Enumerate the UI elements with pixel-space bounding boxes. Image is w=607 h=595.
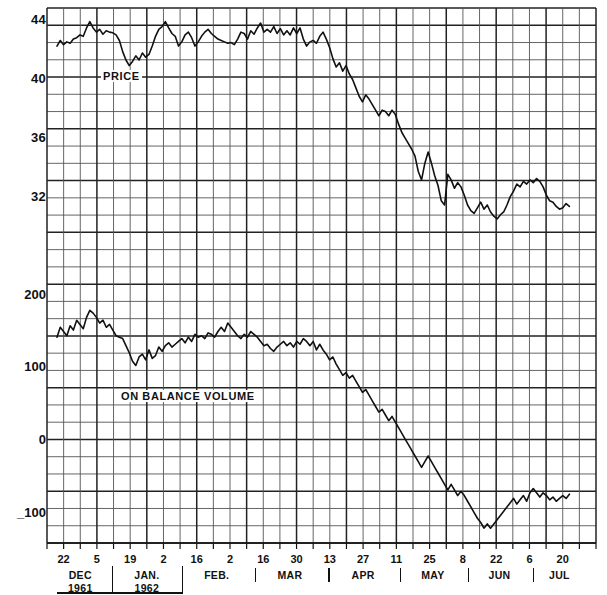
- x-axis-day-tick: 6: [515, 553, 543, 565]
- obv-series-annotation: ON BALANCE VOLUME: [119, 390, 257, 402]
- chart-canvas: [0, 0, 607, 595]
- y-axis-label-price-40: 40: [22, 71, 46, 86]
- x-axis-day-tick: 20: [549, 553, 577, 565]
- year-underline: [57, 592, 183, 594]
- x-axis-day-tick: 30: [283, 553, 311, 565]
- x-axis-day-tick: 16: [249, 553, 277, 565]
- x-axis-month-label: MAR: [264, 569, 316, 581]
- x-axis-month-separator: [182, 566, 184, 592]
- x-axis-day-tick: 27: [349, 553, 377, 565]
- x-axis-month-separator: [400, 568, 402, 582]
- y-axis-label-obv-neg100: _100: [4, 505, 46, 520]
- x-axis-day-tick: 22: [482, 553, 510, 565]
- x-axis-day-tick: 22: [50, 553, 78, 565]
- x-axis-day-tick: 25: [416, 553, 444, 565]
- x-axis-month-label: JUN: [474, 569, 526, 581]
- x-axis-day-tick: 19: [116, 553, 144, 565]
- x-axis-month-label: APR: [337, 569, 389, 581]
- chart-figure: 44 40 36 32 200 100 0 _100 PRICE ON BALA…: [0, 0, 607, 595]
- x-axis-month-separator: [255, 568, 257, 582]
- x-axis-month-label: FEB.: [191, 569, 243, 581]
- price-series-annotation: PRICE: [101, 70, 142, 82]
- x-axis-month-label: JAN.: [121, 569, 173, 581]
- x-axis-day-tick: 16: [183, 553, 211, 565]
- x-axis-day-tick: 2: [149, 553, 177, 565]
- y-axis-label-price-36: 36: [22, 130, 46, 145]
- x-axis-day-tick: 13: [316, 553, 344, 565]
- x-axis-month-label: JUL: [533, 569, 585, 581]
- x-axis-month-separator: [328, 568, 330, 582]
- x-axis-day-tick: 11: [382, 553, 410, 565]
- x-axis-month-label: MAY: [407, 569, 459, 581]
- x-axis-month-separator: [468, 568, 470, 582]
- x-axis-month-label: DEC: [54, 569, 106, 581]
- y-axis-label-price-44: 44: [22, 12, 46, 27]
- y-axis-label-price-32: 32: [22, 189, 46, 204]
- x-axis-month-separator: [533, 568, 535, 582]
- y-axis-label-obv-100: 100: [8, 359, 46, 374]
- x-axis-day-tick: 5: [83, 553, 111, 565]
- x-axis-month-separator: [112, 566, 114, 592]
- x-axis-day-tick: 2: [216, 553, 244, 565]
- x-axis-ticks: [47, 543, 596, 549]
- x-axis-day-tick: 8: [449, 553, 477, 565]
- y-axis-label-obv-0: 0: [8, 432, 46, 447]
- grid-lines: [47, 8, 596, 543]
- y-axis-label-obv-200: 200: [8, 287, 46, 302]
